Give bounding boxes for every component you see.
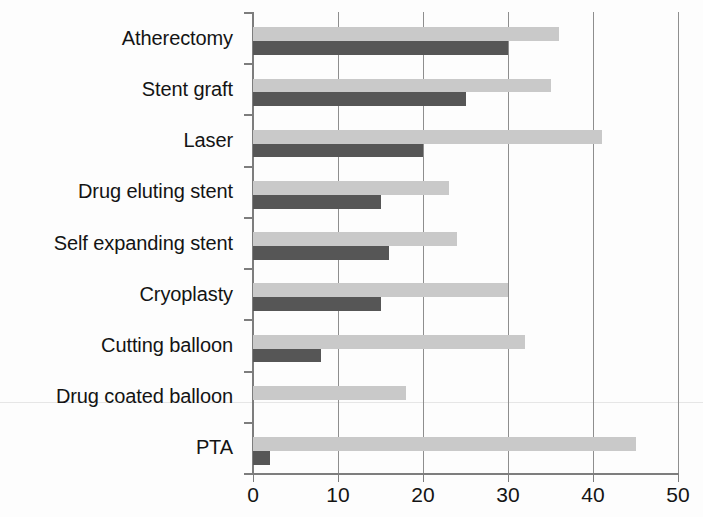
bar-dark — [253, 195, 381, 209]
x-axis-tick-label: 30 — [496, 483, 519, 507]
y-axis-tick — [244, 422, 253, 424]
x-axis-tick-label: 10 — [326, 483, 349, 507]
category-label: Laser — [183, 129, 233, 151]
bar-dark — [253, 92, 466, 106]
bar-light — [253, 283, 508, 297]
category-label: Cryoplasty — [140, 283, 233, 305]
bar-dark — [253, 451, 270, 465]
bar-chart: AtherectomyStent graftLaserDrug eluting … — [0, 0, 703, 517]
y-axis-tick — [244, 217, 253, 219]
bar-light — [253, 79, 551, 93]
y-axis-tick — [244, 63, 253, 65]
category-label: Drug eluting stent — [78, 180, 233, 202]
bar-light — [253, 130, 602, 144]
bar-light — [253, 232, 457, 246]
plot-area — [253, 12, 678, 473]
x-axis-tick — [423, 475, 424, 482]
x-axis-tick — [678, 475, 679, 482]
category-label: Self expanding stent — [54, 232, 233, 254]
x-axis-labels: 01020304050 — [253, 475, 679, 517]
bar-dark — [253, 349, 321, 363]
x-axis-tick — [253, 475, 254, 482]
bar-dark — [253, 144, 423, 158]
y-axis-tick — [244, 319, 253, 321]
bar-light — [253, 335, 525, 349]
category-label: PTA — [196, 436, 233, 458]
bar-dark — [253, 41, 508, 55]
category-label: Stent graft — [142, 78, 233, 100]
x-axis-tick — [508, 475, 509, 482]
gridline-40 — [593, 12, 594, 473]
y-axis-tick — [244, 114, 253, 116]
x-axis-tick-label: 50 — [666, 483, 689, 507]
category-label: Atherectomy — [122, 27, 233, 49]
bar-light — [253, 386, 406, 400]
category-label: Drug coated balloon — [56, 385, 233, 407]
bar-dark — [253, 246, 389, 260]
y-axis-tick — [244, 371, 253, 373]
y-axis-tick — [244, 166, 253, 168]
x-axis-tick-label: 40 — [581, 483, 604, 507]
y-axis-tick — [244, 268, 253, 270]
bar-dark — [253, 297, 381, 311]
gridline-50 — [678, 12, 679, 473]
category-label: Cutting balloon — [101, 334, 233, 356]
x-axis-tick-label: 20 — [411, 483, 434, 507]
y-axis-tick — [244, 12, 253, 14]
y-axis-tick — [244, 473, 253, 475]
category-axis-labels: AtherectomyStent graftLaserDrug eluting … — [0, 0, 243, 473]
bar-light — [253, 437, 636, 451]
x-axis-tick — [593, 475, 594, 482]
bar-light — [253, 181, 449, 195]
bar-light — [253, 27, 559, 41]
x-axis-tick-label: 0 — [247, 483, 259, 507]
x-axis-tick — [338, 475, 339, 482]
